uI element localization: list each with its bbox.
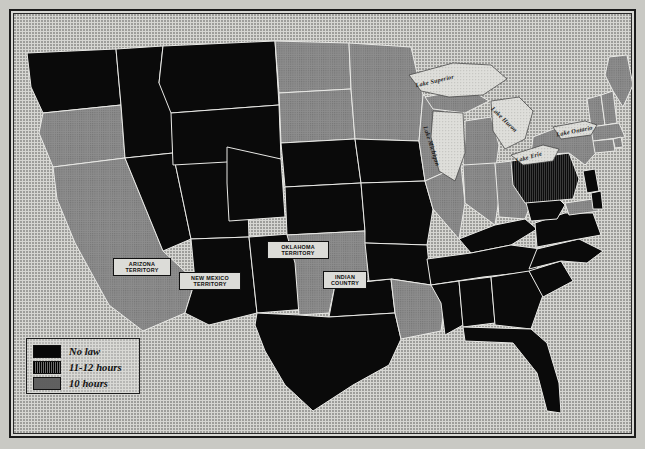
state-oregon [39, 105, 125, 167]
legend-label-11-12-hours: 11-12 hours [69, 362, 122, 373]
legend-row-11-12-hours: 11-12 hours [33, 360, 133, 374]
state-montana [159, 41, 279, 113]
state-new-jersey [583, 169, 599, 193]
map-page: Lake Superior Lake Michigan Lake Huron L… [0, 0, 645, 449]
terr-line1: INDIAN [335, 274, 355, 280]
map-legend: No law 11-12 hours 10 hours [26, 338, 140, 394]
indian-country-label: INDIAN COUNTRY [323, 271, 367, 289]
state-indiana [463, 163, 499, 225]
state-minnesota [349, 43, 423, 141]
legend-label-no-law: No law [69, 346, 100, 357]
legend-row-no-law: No law [33, 344, 133, 358]
state-nebraska [281, 139, 361, 187]
state-delaware [591, 191, 603, 209]
state-connecticut [593, 139, 615, 153]
legend-swatch-10-hours [33, 377, 61, 390]
arizona-territory-label: ARIZONA TERRITORY [113, 258, 171, 276]
state-south-dakota [279, 89, 355, 143]
legend-row-10-hours: 10 hours [33, 376, 133, 390]
legend-swatch-no-law [33, 345, 61, 358]
oklahoma-territory-label: OKLAHOMA TERRITORY [267, 241, 329, 259]
terr-line2: TERRITORY [193, 281, 226, 287]
terr-line2: TERRITORY [125, 267, 158, 273]
state-alabama [459, 277, 495, 327]
state-iowa [355, 139, 425, 183]
state-colorado [227, 147, 285, 221]
terr-line1: ARIZONA [129, 261, 155, 267]
new-mexico-territory-label: NEW MEXICO TERRITORY [179, 272, 241, 290]
legend-swatch-11-12-hours [33, 361, 61, 374]
state-florida [463, 327, 561, 413]
legend-label-10-hours: 10 hours [69, 378, 108, 389]
terr-line2: TERRITORY [281, 250, 314, 256]
terr-line2: COUNTRY [331, 280, 359, 286]
state-kansas [285, 183, 365, 235]
terr-line1: NEW MEXICO [191, 275, 229, 281]
state-missouri [361, 181, 433, 245]
state-north-dakota [275, 41, 351, 93]
state-arkansas [365, 243, 431, 285]
state-washington [27, 49, 121, 113]
state-texas [255, 313, 401, 411]
terr-line1: OKLAHOMA [281, 244, 315, 250]
